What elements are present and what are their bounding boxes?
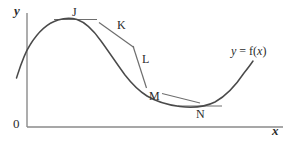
point-label-k: K <box>117 19 126 31</box>
function-curve <box>17 18 254 107</box>
y-axis-label: y <box>14 4 20 17</box>
tangent-line-at-m <box>162 94 200 104</box>
function-label-fname: f( <box>249 44 257 58</box>
function-label-close: ) <box>262 44 266 58</box>
origin-label: 0 <box>13 117 20 130</box>
figure-canvas: y x 0 J K L M N y = f(x) <box>0 0 289 143</box>
x-axis-label: x <box>272 124 279 137</box>
function-equation-label: y = f(x) <box>231 45 266 57</box>
function-label-equals: = <box>236 44 249 58</box>
point-label-n: N <box>196 108 205 120</box>
graph-drawing <box>0 0 289 143</box>
point-label-j: J <box>72 6 77 18</box>
point-label-l: L <box>142 53 149 65</box>
point-label-m: M <box>149 90 160 102</box>
